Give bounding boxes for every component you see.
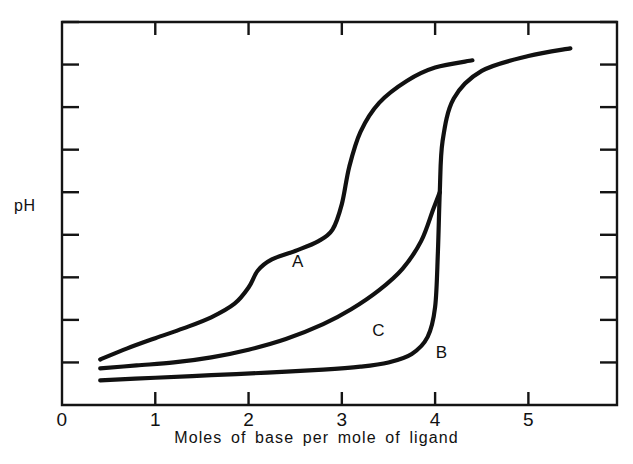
x-tick-label-5: 5	[513, 409, 543, 431]
y-axis-label: pH	[14, 197, 36, 215]
ph-titration-chart: pH Moles of base per mole of ligand 0123…	[0, 0, 633, 464]
x-tick-label-1: 1	[140, 409, 170, 431]
curve-label-B: B	[436, 343, 448, 363]
curve-C	[100, 192, 440, 368]
data-curves	[100, 48, 570, 380]
x-axis-label: Moles of base per mole of ligand	[0, 429, 633, 447]
curve-A	[100, 60, 472, 359]
curve-label-C: C	[372, 321, 385, 341]
x-tick-label-2: 2	[234, 409, 264, 431]
x-tick-label-0: 0	[47, 409, 77, 431]
x-tick-label-3: 3	[327, 409, 357, 431]
x-tick-label-4: 4	[420, 409, 450, 431]
chart-plot-area	[0, 0, 633, 464]
curve-B	[100, 48, 570, 380]
x-axis-ticks-bottom	[155, 392, 528, 405]
curve-label-A: A	[292, 252, 304, 272]
y-axis-ticks-left	[62, 22, 79, 362]
y-axis-ticks-right	[600, 22, 617, 362]
x-axis-ticks-top	[155, 22, 528, 35]
